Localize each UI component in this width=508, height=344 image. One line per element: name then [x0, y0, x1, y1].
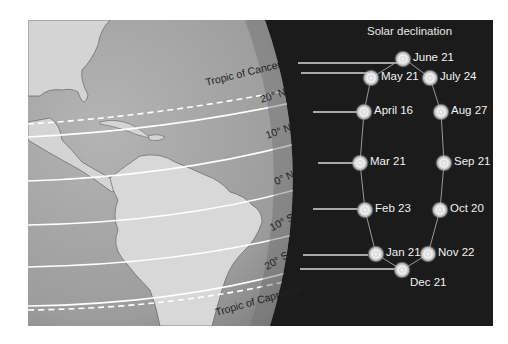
solar-declination-figure: Solar declination Tropic of Cancer20° N1… [28, 20, 493, 326]
date-dot [421, 69, 439, 87]
date-dot [393, 261, 411, 279]
date-label: Sep 21 [454, 155, 490, 167]
date-dot [362, 69, 380, 87]
date-dot [355, 103, 373, 121]
date-label: Dec 21 [410, 276, 446, 288]
date-dot [431, 201, 449, 219]
date-dot [394, 50, 412, 68]
date-dot [419, 245, 437, 263]
date-label: Mar 21 [370, 155, 406, 167]
date-label: July 24 [440, 70, 476, 82]
date-label: April 16 [374, 104, 413, 116]
date-label: June 21 [413, 51, 454, 63]
date-dot [351, 154, 369, 172]
date-dot [432, 103, 450, 121]
date-label: May 21 [381, 70, 419, 82]
date-dot [435, 154, 453, 172]
date-label: Feb 23 [375, 202, 411, 214]
date-label: Aug 27 [451, 104, 487, 116]
date-label: Jan 21 [386, 246, 421, 258]
date-dot [356, 201, 374, 219]
date-dot [367, 245, 385, 263]
date-label: Nov 22 [438, 246, 474, 258]
diagram-title: Solar declination [367, 25, 452, 37]
date-label: Oct 20 [450, 202, 484, 214]
